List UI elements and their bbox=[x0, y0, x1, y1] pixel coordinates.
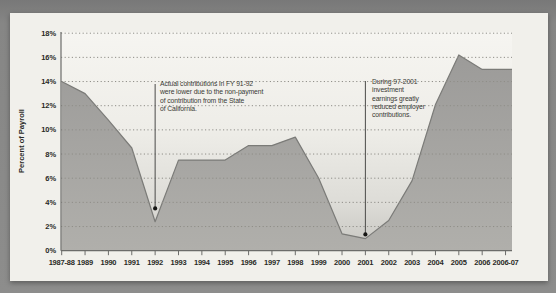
y-tick-label: 6% bbox=[24, 174, 56, 183]
chart-canvas bbox=[10, 13, 548, 281]
y-tick-label: 2% bbox=[24, 222, 56, 231]
y-tick-label: 8% bbox=[24, 150, 56, 159]
y-tick-label: 16% bbox=[24, 53, 56, 62]
y-axis-title: Percent of Payroll bbox=[17, 109, 26, 173]
annotation-dot bbox=[153, 206, 157, 210]
x-tick-label: 2006-07 bbox=[483, 258, 529, 267]
y-tick-label: 4% bbox=[24, 198, 56, 207]
y-tick-label: 14% bbox=[24, 77, 56, 86]
chart-frame: Percent of Payroll Actual contributions … bbox=[0, 0, 556, 293]
y-tick-label: 12% bbox=[24, 101, 56, 110]
annotation-dot bbox=[363, 232, 367, 236]
y-tick-label: 18% bbox=[24, 29, 56, 38]
annotation-97-2001: During 97-2001 investment earnings great… bbox=[372, 78, 444, 119]
y-tick-label: 10% bbox=[24, 125, 56, 134]
chart-panel: Percent of Payroll Actual contributions … bbox=[10, 13, 548, 281]
y-tick-label: 0% bbox=[24, 246, 56, 255]
annotation-fy-91-92: Actual contributions in FY 91-92 were lo… bbox=[160, 80, 290, 113]
